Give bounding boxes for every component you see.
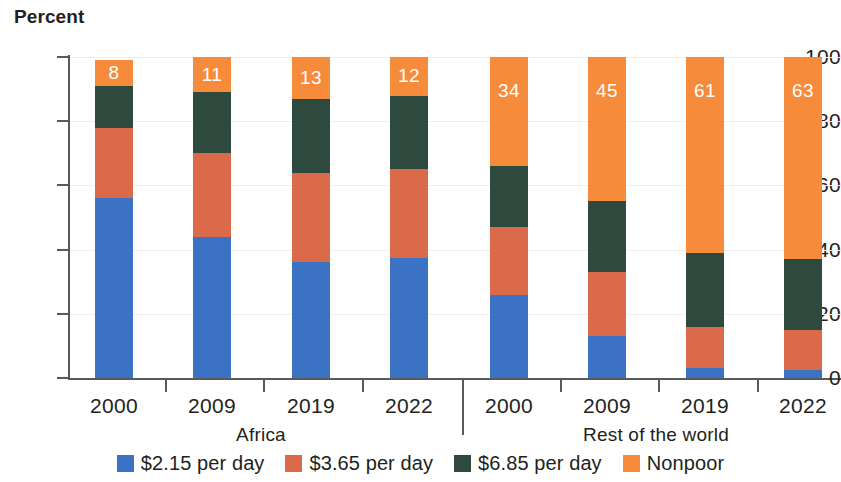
legend-item[interactable]: Nonpoor [623,452,724,475]
y-axis-title: Percent [14,6,84,28]
bar-segment[interactable] [686,368,724,378]
bar-stack[interactable]: 12 [390,57,428,378]
bar-stack[interactable]: 8 [95,57,133,378]
bar-segment[interactable] [784,57,822,259]
y-tick-mark [57,184,68,186]
x-tick-label: 2009 [167,394,257,418]
y-tick-mark [57,249,68,251]
legend-label: $6.85 per day [478,452,602,475]
bar-segment[interactable] [490,227,528,294]
bar-segment[interactable] [490,57,528,166]
bar-segment[interactable] [390,258,428,378]
legend-swatch-icon [454,455,471,472]
bar-segment[interactable] [490,295,528,378]
y-tick-mark [57,377,68,379]
plot-area: 811131234456163 [68,57,841,378]
bar-segment[interactable] [95,128,133,199]
bar-segment[interactable] [686,253,724,327]
bar-segment[interactable] [784,370,822,378]
bar-segment[interactable] [588,336,626,378]
legend-swatch-icon [117,455,134,472]
x-tick-mark [560,380,562,392]
x-tick-label: 2009 [562,394,652,418]
legend-label: Nonpoor [647,452,724,475]
bar-segment[interactable] [784,330,822,370]
bar-segment[interactable] [95,198,133,378]
legend-swatch-icon [285,455,302,472]
x-tick-mark [165,380,167,392]
x-tick-mark [658,380,660,392]
x-tick-mark [757,380,759,392]
bar-stack[interactable]: 63 [784,57,822,378]
legend-label: $3.65 per day [309,452,433,475]
y-tick-mark [57,56,68,58]
legend-swatch-icon [623,455,640,472]
x-tick-label: 2000 [464,394,554,418]
bar-segment[interactable] [784,259,822,330]
x-tick-label: 2000 [69,394,159,418]
bar-segment[interactable] [292,99,330,173]
chart-legend: $2.15 per day$3.65 per day$6.85 per dayN… [0,452,841,475]
group-label: Rest of the world [506,424,806,446]
bar-segment[interactable] [193,92,231,153]
x-axis-line [68,378,841,380]
x-tick-label: 2019 [660,394,750,418]
bar-segment[interactable] [193,57,231,92]
legend-item[interactable]: $2.15 per day [117,452,265,475]
bar-stack[interactable]: 34 [490,57,528,378]
x-tick-mark [263,380,265,392]
bar-segment[interactable] [588,201,626,272]
bar-segment[interactable] [390,57,428,96]
legend-item[interactable]: $3.65 per day [285,452,433,475]
x-tick-label: 2019 [266,394,356,418]
x-tick-label: 2022 [364,394,454,418]
bar-stack[interactable]: 13 [292,57,330,378]
bar-segment[interactable] [95,60,133,86]
bar-segment[interactable] [292,173,330,263]
bar-segment[interactable] [588,272,626,336]
bar-segment[interactable] [686,57,724,253]
stacked-bar-chart: Percent 020406080100 811131234456163 200… [0,0,841,482]
x-tick-mark [362,380,364,392]
bar-stack[interactable]: 11 [193,57,231,378]
bar-segment[interactable] [292,262,330,378]
group-label: Africa [111,424,411,446]
group-divider [462,381,464,435]
y-tick-mark [57,120,68,122]
bar-segment[interactable] [490,166,528,227]
y-tick-mark [57,313,68,315]
bar-segment[interactable] [292,57,330,99]
bar-segment[interactable] [390,96,428,170]
bar-segment[interactable] [193,237,231,378]
bar-segment[interactable] [193,153,231,236]
bar-segment[interactable] [588,57,626,201]
legend-label: $2.15 per day [141,452,265,475]
bar-stack[interactable]: 45 [588,57,626,378]
bar-segment[interactable] [390,169,428,257]
x-tick-label: 2022 [758,394,841,418]
bar-segment[interactable] [95,86,133,128]
bar-segment[interactable] [686,327,724,369]
legend-item[interactable]: $6.85 per day [454,452,602,475]
bar-stack[interactable]: 61 [686,57,724,378]
